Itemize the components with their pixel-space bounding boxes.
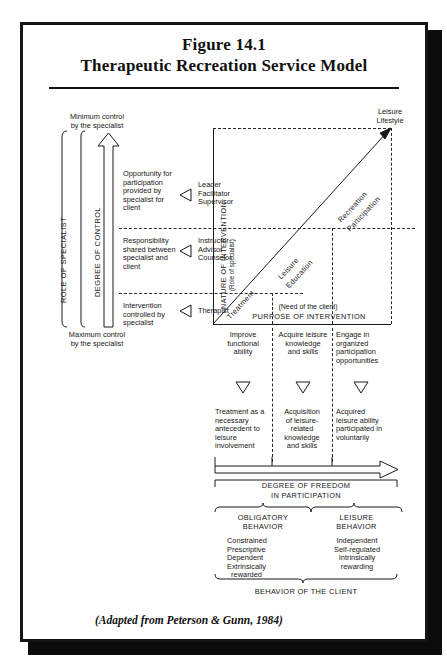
behavior-of-client-label: BEHAVIOR OF THE CLIENT [215,588,397,597]
behavior-group-title-2: LEISURE BEHAVIOR [311,514,402,531]
figure-credit: (Adapted from Peterson & Gunn, 1984) [95,614,283,626]
behavior-group-traits-2: IndependentSelf-regulatedIntrinsicallyre… [316,537,398,571]
figure-frame: Figure 14.1 Therapeutic Recreation Servi… [20,22,428,642]
behavior-group-traits-1: ConstrainedPrescriptiveDependentExtrinsi… [227,537,317,580]
figure-page: Figure 14.1 Therapeutic Recreation Servi… [0,0,447,660]
behavior-group-title-1: OBLIGATORY BEHAVIOR [215,514,311,531]
